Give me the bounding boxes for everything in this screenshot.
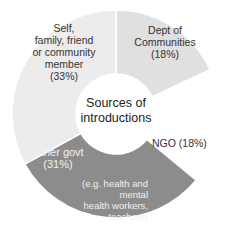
self-pct: (33%) (22, 70, 106, 82)
self-line-4: member (22, 58, 106, 70)
other-note-2: health workers, (52, 200, 148, 211)
other-note-3: teachers) (52, 211, 148, 222)
label-other-govt: Other govt (31%) (30, 146, 86, 170)
other-note-1: (e.g. health and mental (52, 178, 148, 200)
title-line-1: Sources of (76, 96, 156, 111)
other-pct: (31%) (30, 158, 86, 170)
chart-title: Sources of introductions (76, 96, 156, 126)
label-dept-of-communities: Dept of Communities (18%) (128, 24, 202, 60)
title-line-2: introductions (76, 111, 156, 126)
dept-pct: (18%) (128, 48, 202, 60)
other-line-1: Other govt (30, 146, 86, 158)
ngo-text: NGO (18%) (152, 137, 218, 149)
dept-line-1: Dept of (128, 24, 202, 36)
label-other-govt-note: (e.g. health and mental health workers, … (52, 178, 148, 222)
dept-line-2: Communities (128, 36, 202, 48)
label-self-family: Self, family, friend or community member… (22, 22, 106, 82)
self-line-1: Self, (22, 22, 106, 34)
label-ngo: NGO (18%) (152, 137, 218, 149)
self-line-2: family, friend (22, 34, 106, 46)
self-line-3: or community (22, 46, 106, 58)
